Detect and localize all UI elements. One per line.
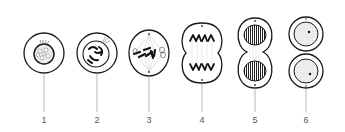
stage-label-6: 6 [296, 115, 316, 125]
stage-3-cell [129, 30, 169, 112]
stage-5-cell [238, 18, 272, 112]
stage-label-4: 4 [192, 115, 212, 125]
stage-1-cell [24, 33, 64, 112]
stage-6-cells [289, 17, 323, 112]
stage-label-3: 3 [139, 115, 159, 125]
stage-2-cell [77, 33, 117, 112]
stage-label-5: 5 [245, 115, 265, 125]
stage-4-cell [182, 23, 222, 112]
mitosis-diagram [0, 0, 345, 132]
stage-label-2: 2 [87, 115, 107, 125]
stage-label-1: 1 [34, 115, 54, 125]
